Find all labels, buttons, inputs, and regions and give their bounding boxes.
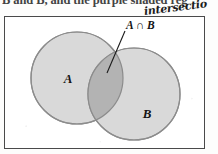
intersection-label: A ∩ B: [125, 19, 155, 31]
set-b-label: B: [142, 106, 152, 121]
venn-diagram-svg: A B A ∩ B: [4, 16, 205, 149]
scanned-figure-page: B and B, and the purple shaded reg inter…: [0, 0, 218, 154]
set-a-label: A: [63, 71, 73, 86]
